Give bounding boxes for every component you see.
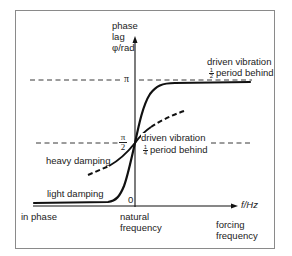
- natural-frequency-label-line2: frequency: [120, 223, 162, 234]
- y-axis-label-lag: lag: [112, 32, 125, 43]
- annotation-half-period-line2: 12period behind: [209, 68, 274, 79]
- annotation-quarter-period-line1: driven vibration: [141, 133, 207, 144]
- y-tick-half-pi: π 2: [119, 133, 127, 152]
- y-tick-half-pi-denominator: 2: [119, 143, 127, 152]
- light-damping-label: light damping: [47, 189, 104, 200]
- y-axis-label-phase: phase: [112, 21, 138, 32]
- annotation-quarter-period-line2: 14period behind: [143, 145, 208, 156]
- x-axis-arrowhead-icon: [231, 204, 238, 209]
- forcing-frequency-label-line2: frequency: [216, 231, 258, 242]
- quarter-fraction: 14: [143, 145, 148, 156]
- heavy-damping-curve-dashed-low: [88, 166, 109, 175]
- x-axis-unit-label: f/Hz: [241, 200, 258, 211]
- y-tick-half-pi-numerator: π: [119, 133, 127, 142]
- half-fraction: 12: [209, 68, 214, 79]
- y-axis-label-unit: φ/rad: [112, 43, 135, 54]
- y-tick-zero: 0: [128, 195, 133, 206]
- annotation-half-period-line1: driven vibration: [207, 57, 271, 68]
- heavy-damping-curve-dashed-high: [151, 111, 184, 127]
- in-phase-label: in phase: [21, 212, 57, 223]
- y-tick-pi: π: [123, 74, 130, 85]
- heavy-damping-label: heavy damping: [46, 156, 110, 167]
- natural-frequency-label-line1: natural: [120, 212, 149, 223]
- forcing-frequency-label-line1: forcing: [216, 220, 245, 231]
